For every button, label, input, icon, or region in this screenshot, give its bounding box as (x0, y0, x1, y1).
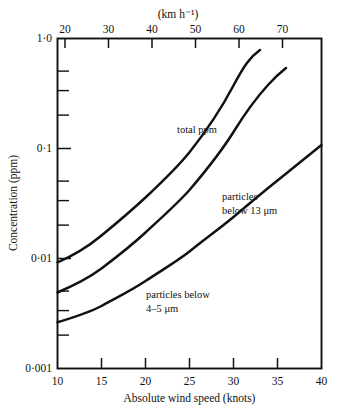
curve-particles-below-13um (58, 68, 287, 293)
concentration-vs-wind-speed-chart: 20 30 40 50 60 70 (km h⁻¹) 10 15 20 25 3… (0, 0, 339, 414)
bottom-tick-label-30: 30 (228, 375, 240, 387)
label-particles-4-5um-line2: 4–5 μm (146, 303, 178, 314)
bottom-tick-label-35: 35 (272, 375, 284, 387)
top-tick-label-70: 70 (277, 23, 289, 35)
label-particles-13um-line2: below 13 μm (222, 205, 277, 216)
label-particles-4-5um-line1: particles below (146, 289, 210, 300)
bottom-tick-label-20: 20 (140, 375, 152, 387)
curve-annotations: total ppm particles below 13 μm particle… (146, 124, 277, 314)
bottom-tick-label-40: 40 (316, 375, 328, 387)
y-tick-label-1: 1·0 (37, 32, 53, 44)
y-tick-label-0-01: 0·01 (31, 252, 52, 264)
bottom-tick-label-10: 10 (52, 375, 64, 387)
curve-total-ppm (58, 50, 261, 262)
top-tick-label-20: 20 (59, 23, 71, 35)
label-particles-13um-line1: particles (222, 191, 258, 202)
chart-figure: 20 30 40 50 60 70 (km h⁻¹) 10 15 20 25 3… (0, 0, 339, 414)
bottom-axis-title: Absolute wind speed (knots) (124, 392, 256, 405)
left-axis-title: Concentration (ppm) (7, 155, 20, 251)
top-tick-label-30: 30 (103, 23, 115, 35)
y-tick-label-0-1: 0·1 (37, 142, 53, 154)
bottom-tick-label-25: 25 (184, 375, 196, 387)
bottom-tick-label-15: 15 (96, 375, 108, 387)
top-axis: 20 30 40 50 60 70 (km h⁻¹) (59, 8, 288, 48)
label-total-ppm: total ppm (177, 124, 217, 135)
y-tick-label-0-001: 0·001 (25, 362, 52, 374)
top-tick-label-50: 50 (190, 23, 202, 35)
top-tick-label-60: 60 (233, 23, 245, 35)
bottom-axis: 10 15 20 25 30 35 40 Absolute wind speed… (52, 358, 328, 405)
left-axis: 1·0 0·1 0·01 0·001 Concentration (ppm) (7, 32, 71, 374)
top-axis-title: (km h⁻¹) (158, 8, 199, 21)
plot-frame (58, 39, 322, 369)
data-curves (58, 50, 322, 322)
top-tick-label-40: 40 (146, 23, 158, 35)
